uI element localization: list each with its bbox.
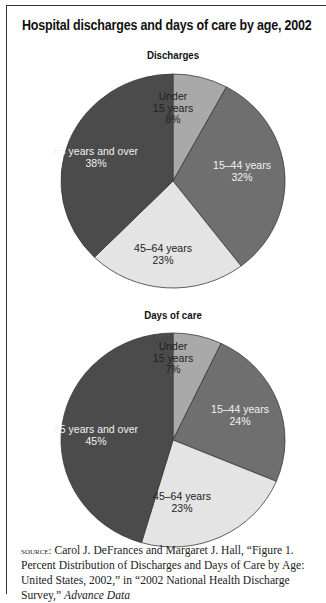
source-italic: Advance Data	[64, 589, 130, 602]
source-prefix: source:	[21, 545, 52, 556]
source-note: source: Carol J. DeFrances and Margaret …	[21, 543, 321, 603]
